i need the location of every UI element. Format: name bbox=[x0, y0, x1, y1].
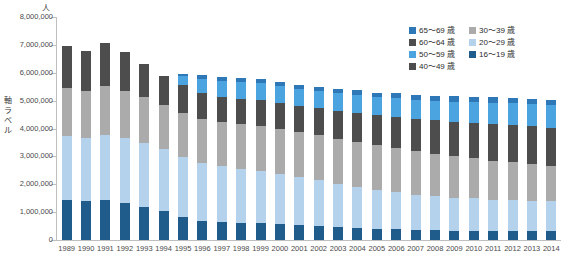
bar-segment[interactable] bbox=[372, 190, 382, 229]
legend-item[interactable]: 30～39 歳 bbox=[469, 25, 515, 36]
bar-segment[interactable] bbox=[546, 166, 556, 202]
bar-segment[interactable] bbox=[159, 149, 169, 211]
bar-segment[interactable] bbox=[508, 125, 518, 162]
bar-segment[interactable] bbox=[449, 198, 459, 231]
bar-group[interactable] bbox=[508, 98, 518, 240]
bar-group[interactable] bbox=[139, 64, 149, 240]
bar-group[interactable] bbox=[100, 43, 110, 240]
bar-segment[interactable] bbox=[139, 207, 149, 240]
bar-segment[interactable] bbox=[139, 97, 149, 143]
bar-segment[interactable] bbox=[120, 52, 130, 91]
bar-segment[interactable] bbox=[81, 138, 91, 201]
bar-segment[interactable] bbox=[411, 230, 421, 240]
bar-segment[interactable] bbox=[488, 124, 498, 161]
legend-item[interactable]: 40～49 歳 bbox=[409, 61, 455, 72]
bar-segment[interactable] bbox=[217, 122, 227, 166]
bar-segment[interactable] bbox=[508, 231, 518, 240]
bar-segment[interactable] bbox=[430, 230, 440, 240]
bar-segment[interactable] bbox=[62, 136, 72, 200]
bar-segment[interactable] bbox=[197, 221, 207, 241]
bar-segment[interactable] bbox=[294, 177, 304, 225]
bar-segment[interactable] bbox=[546, 105, 556, 127]
bar-group[interactable] bbox=[217, 77, 227, 240]
bar-segment[interactable] bbox=[217, 166, 227, 222]
bar-segment[interactable] bbox=[469, 123, 479, 159]
bar-segment[interactable] bbox=[546, 231, 556, 240]
bar-segment[interactable] bbox=[178, 157, 188, 217]
bar-segment[interactable] bbox=[391, 98, 401, 116]
bar-group[interactable] bbox=[411, 95, 421, 240]
bar-segment[interactable] bbox=[197, 163, 207, 221]
bar-segment[interactable] bbox=[314, 180, 324, 226]
bar-segment[interactable] bbox=[508, 103, 518, 125]
bar-segment[interactable] bbox=[411, 151, 421, 194]
bar-segment[interactable] bbox=[217, 97, 227, 123]
bar-segment[interactable] bbox=[159, 211, 169, 240]
legend-item[interactable]: 60～64 歳 bbox=[409, 37, 455, 48]
bar-segment[interactable] bbox=[275, 103, 285, 129]
bar-segment[interactable] bbox=[256, 83, 266, 100]
bar-segment[interactable] bbox=[469, 198, 479, 230]
bar-group[interactable] bbox=[178, 74, 188, 240]
bar-segment[interactable] bbox=[236, 223, 246, 240]
bar-segment[interactable] bbox=[100, 135, 110, 200]
bar-segment[interactable] bbox=[527, 126, 537, 164]
bar-segment[interactable] bbox=[294, 132, 304, 177]
bar-segment[interactable] bbox=[352, 228, 362, 240]
bar-segment[interactable] bbox=[294, 89, 304, 106]
bar-segment[interactable] bbox=[81, 201, 91, 240]
legend-item[interactable]: 16～19 歳 bbox=[469, 49, 515, 60]
bar-segment[interactable] bbox=[236, 99, 246, 124]
bar-segment[interactable] bbox=[197, 93, 207, 119]
bar-segment[interactable] bbox=[178, 217, 188, 240]
bar-segment[interactable] bbox=[81, 91, 91, 138]
bar-segment[interactable] bbox=[352, 113, 362, 142]
bar-segment[interactable] bbox=[333, 227, 343, 240]
bar-group[interactable] bbox=[469, 97, 479, 241]
bar-segment[interactable] bbox=[469, 102, 479, 123]
bar-segment[interactable] bbox=[352, 142, 362, 187]
bar-segment[interactable] bbox=[333, 93, 343, 110]
bar-group[interactable] bbox=[294, 85, 304, 241]
bar-segment[interactable] bbox=[449, 156, 459, 197]
bar-segment[interactable] bbox=[527, 104, 537, 126]
bar-segment[interactable] bbox=[81, 51, 91, 91]
bar-segment[interactable] bbox=[139, 143, 149, 207]
bar-segment[interactable] bbox=[488, 231, 498, 240]
bar-segment[interactable] bbox=[352, 187, 362, 228]
bar-segment[interactable] bbox=[120, 91, 130, 138]
bar-segment[interactable] bbox=[314, 135, 324, 180]
bar-segment[interactable] bbox=[197, 119, 207, 163]
bar-segment[interactable] bbox=[527, 201, 537, 231]
bar-segment[interactable] bbox=[314, 108, 324, 135]
bar-segment[interactable] bbox=[217, 222, 227, 240]
bar-segment[interactable] bbox=[449, 122, 459, 157]
bar-group[interactable] bbox=[391, 93, 401, 240]
bar-group[interactable] bbox=[546, 100, 556, 240]
bar-segment[interactable] bbox=[120, 203, 130, 240]
bar-segment[interactable] bbox=[469, 231, 479, 240]
bar-segment[interactable] bbox=[256, 126, 266, 171]
bar-segment[interactable] bbox=[62, 200, 72, 240]
bar-group[interactable] bbox=[314, 87, 324, 240]
bar-segment[interactable] bbox=[469, 158, 479, 198]
bar-segment[interactable] bbox=[314, 91, 324, 108]
bar-segment[interactable] bbox=[217, 81, 227, 97]
bar-segment[interactable] bbox=[333, 184, 343, 227]
bar-segment[interactable] bbox=[294, 225, 304, 240]
legend-item[interactable]: 50～59 歳 bbox=[409, 49, 455, 60]
bar-segment[interactable] bbox=[197, 79, 207, 93]
bar-segment[interactable] bbox=[275, 224, 285, 240]
legend-item[interactable]: 20～29 歳 bbox=[469, 37, 515, 48]
bar-group[interactable] bbox=[197, 75, 207, 240]
bar-segment[interactable] bbox=[256, 171, 266, 223]
bar-segment[interactable] bbox=[430, 154, 440, 196]
bar-group[interactable] bbox=[275, 82, 285, 240]
bar-segment[interactable] bbox=[391, 192, 401, 229]
bar-group[interactable] bbox=[256, 79, 266, 240]
bar-segment[interactable] bbox=[236, 124, 246, 169]
bar-segment[interactable] bbox=[411, 195, 421, 230]
bar-segment[interactable] bbox=[352, 95, 362, 113]
bar-segment[interactable] bbox=[275, 174, 285, 224]
bar-segment[interactable] bbox=[100, 43, 110, 86]
